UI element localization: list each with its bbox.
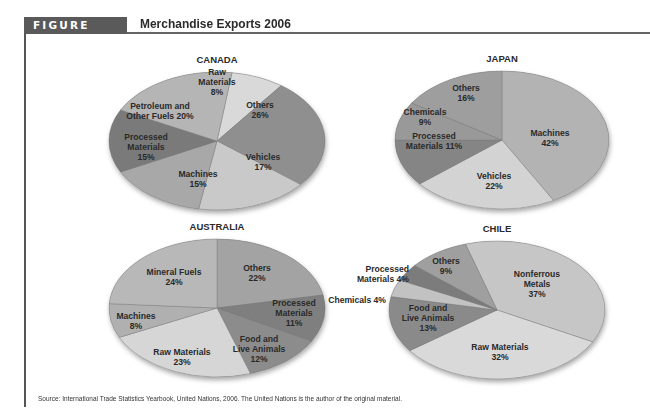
pie-title: JAPAN [486,53,518,64]
pie-canada: CANADARawMaterials8%Others26%Vehicles17%… [109,54,325,210]
pie-title: CHILE [483,223,512,234]
pie-japan: JAPANMachines42%Vehicles22%ProcessedMate… [395,53,609,209]
pie-charts: CANADARawMaterials8%Others26%Vehicles17%… [0,0,650,420]
pie-australia: AUSTRALIAOthers22%ProcessedMaterials11%F… [109,221,325,377]
slice-label: ProcessedMaterials 4% [357,264,409,284]
slice-label: Petroleum andOther Fuels 20% [126,101,194,121]
slice-label: ProcessedMaterials 11% [406,131,463,151]
slice-label: Chemicals 4% [328,295,386,305]
source-note: Source: International Trade Statistics Y… [38,394,402,403]
pie-title: AUSTRALIA [190,221,245,232]
pie-title: CANADA [196,54,237,65]
pie-chile: CHILENonferrousMetals37%Raw Materials32%… [328,223,605,379]
